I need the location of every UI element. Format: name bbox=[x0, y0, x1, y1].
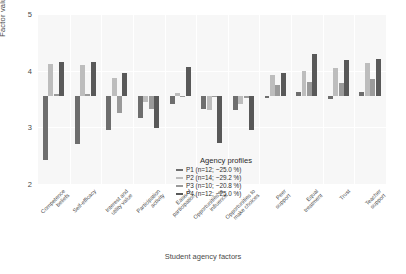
y-tick-label: 5 bbox=[4, 10, 32, 19]
bar bbox=[207, 96, 212, 110]
bar bbox=[91, 62, 96, 96]
bar bbox=[43, 96, 48, 160]
bar bbox=[106, 96, 111, 130]
legend-title: Agency profiles bbox=[176, 156, 276, 165]
gridline-x bbox=[291, 14, 292, 184]
bar bbox=[138, 96, 143, 118]
bar bbox=[149, 96, 154, 109]
bar bbox=[175, 93, 180, 96]
y-axis-title: Factor value bbox=[0, 0, 7, 58]
legend-label: P3 (n=10; ~20.8 %) bbox=[186, 182, 241, 189]
bar bbox=[312, 54, 317, 97]
bar bbox=[265, 96, 270, 98]
bar bbox=[143, 96, 148, 102]
bar bbox=[270, 75, 275, 96]
bar bbox=[117, 96, 122, 113]
gridline-x bbox=[323, 14, 324, 184]
gridline-x bbox=[354, 14, 355, 184]
bar bbox=[201, 96, 206, 108]
x-tick-label: Competence beliefs bbox=[17, 188, 71, 242]
bar bbox=[180, 96, 185, 98]
bar bbox=[275, 85, 280, 96]
bar bbox=[370, 79, 375, 97]
bar bbox=[48, 64, 53, 96]
bar bbox=[170, 96, 175, 103]
bar bbox=[59, 62, 64, 97]
gridline-y bbox=[38, 127, 386, 128]
y-tick-label: 3 bbox=[4, 123, 32, 132]
factor-value-bar-chart: 2345 Factor value Competence beliefsSelf… bbox=[0, 0, 406, 274]
bar bbox=[154, 96, 159, 128]
gridline-x bbox=[165, 14, 166, 184]
y-tick-label: 4 bbox=[4, 67, 32, 76]
bar bbox=[249, 96, 254, 130]
gridline-x bbox=[101, 14, 102, 184]
legend-item: P4 (n=12; ~25.0 %) bbox=[176, 190, 276, 197]
bar bbox=[244, 96, 249, 98]
bar bbox=[217, 96, 222, 143]
bar bbox=[122, 73, 127, 96]
bar bbox=[359, 92, 364, 96]
bar bbox=[233, 96, 238, 110]
legend-label: P1 (n=12; ~25.0 %) bbox=[186, 166, 241, 173]
x-axis-title: Student agency factors bbox=[0, 252, 406, 261]
legend-label: P4 (n=12; ~25.0 %) bbox=[186, 190, 241, 197]
bar bbox=[112, 78, 117, 96]
legend-swatch bbox=[176, 169, 183, 171]
bar bbox=[186, 67, 191, 96]
bar bbox=[339, 83, 344, 96]
legend-swatch bbox=[176, 177, 183, 179]
y-tick-label: 2 bbox=[4, 180, 32, 189]
legend-item: P1 (n=12; ~25.0 %) bbox=[176, 166, 276, 173]
bar bbox=[344, 60, 349, 96]
gridline-x bbox=[133, 14, 134, 184]
bar bbox=[80, 65, 85, 96]
bar bbox=[212, 96, 217, 98]
bar bbox=[296, 92, 301, 96]
bar bbox=[85, 94, 90, 96]
bar bbox=[376, 59, 381, 96]
bar bbox=[307, 82, 312, 96]
legend-swatch bbox=[176, 185, 183, 187]
bar bbox=[54, 94, 59, 96]
bar bbox=[238, 96, 243, 103]
legend: Agency profiles P1 (n=12; ~25.0 %)P2 (n=… bbox=[176, 156, 276, 198]
bar bbox=[333, 68, 338, 96]
bar bbox=[302, 71, 307, 97]
gridline-x bbox=[70, 14, 71, 184]
bar bbox=[75, 96, 80, 144]
bar bbox=[365, 63, 370, 96]
gridline-y bbox=[38, 14, 386, 15]
bar bbox=[328, 96, 333, 99]
legend-item: P2 (n=14; ~29.2 %) bbox=[176, 174, 276, 181]
legend-entries: P1 (n=12; ~25.0 %)P2 (n=14; ~29.2 %)P3 (… bbox=[176, 166, 276, 197]
legend-label: P2 (n=14; ~29.2 %) bbox=[186, 174, 241, 181]
legend-item: P3 (n=10; ~20.8 %) bbox=[176, 182, 276, 189]
legend-swatch bbox=[176, 193, 183, 195]
bar bbox=[281, 73, 286, 96]
